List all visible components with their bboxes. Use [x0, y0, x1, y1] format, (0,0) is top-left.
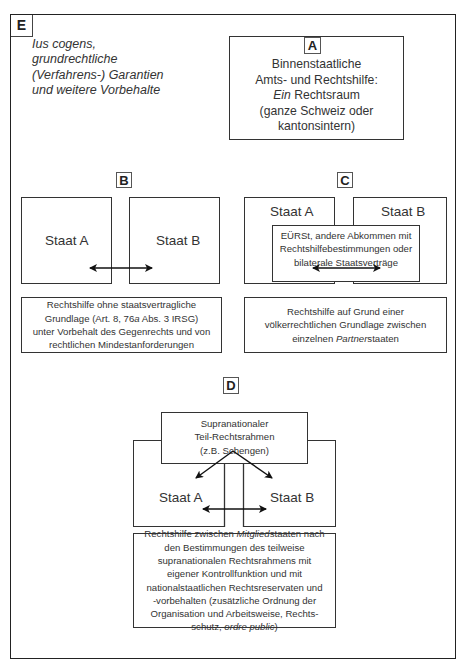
panel-a-line: Amts- und Rechtshilfe: [255, 73, 378, 89]
panel-e-line: (Verfahrens-) Garantien [32, 68, 164, 83]
panel-d-caption-text: staaten nach [270, 528, 325, 539]
panel-a-line3-rest: Rechtsraum [291, 88, 360, 102]
panel-d-caption-line: Organisation und Arbeitsweise, Rechts- [151, 607, 319, 620]
panel-d-supranational-box: Supranationaler Teil-Rechtsrahmen (z.B. … [161, 412, 308, 464]
panel-d-caption-line: Rechtshilfe zwischen Mitgliedstaaten nac… [144, 527, 324, 540]
panel-c-caption-text: staaten [367, 333, 398, 344]
panel-b-caption-line: Rechtshilfe ohne staatsvertragliche [47, 298, 196, 311]
panel-d-supranational-line: Supranationaler [201, 417, 269, 430]
panel-c-caption: Rechtshilfe auf Grund einer völkerrechtl… [244, 297, 447, 353]
panel-b-caption-text: Grundlage (Art. 8, 76 [45, 313, 135, 324]
panel-c-label: C [337, 172, 353, 188]
panel-b-caption-line: rechtlichen Mindestanforderungen [49, 338, 194, 351]
panel-b-caption-line: unter Vorbehalt des Gegenrechts und von [33, 325, 211, 338]
panel-d-caption-text: ) [275, 621, 278, 632]
panel-c-treaty-line: EÜRSt, andere Abkommen mit [281, 229, 412, 242]
panel-c-caption-text: einzelnen [292, 333, 336, 344]
panel-c-treaty-line: Rechtshilfebestimmungen oder [280, 242, 412, 255]
panel-b-caption-line: Grundlage (Art. 8, 76a Abs. 3 IRSG) [45, 312, 199, 325]
panel-d-caption-line: den Bestimmungen des teilweise [164, 541, 304, 554]
panel-b-label: B [116, 172, 132, 188]
panel-d-caption-line: supranationalen Rechtsrahmens mit [158, 554, 312, 567]
panel-c-treaty-box: EÜRSt, andere Abkommen mit Rechtshilfebe… [272, 225, 420, 282]
panel-c-treaty-text: EÜRSt, andere Abkommen mit Rechtshilfebe… [273, 229, 419, 269]
panel-e-line: und weitere Vorbehalte [32, 83, 164, 98]
panel-b-caption: Rechtshilfe ohne staatsvertragliche Grun… [21, 297, 222, 353]
panel-c-state-a-label: Staat A [270, 204, 314, 219]
panel-c-caption-emphasis: Partner [336, 333, 367, 344]
panel-d-caption-emphasis: Mitglied [237, 528, 270, 539]
panel-e-line: Ius cogens, [32, 37, 164, 52]
panel-a-emphasis: Ein [273, 88, 291, 102]
panel-d-supranational-line: (z.B. Schengen) [200, 444, 269, 457]
panel-b-state-a-label: Staat A [45, 233, 89, 248]
panel-c-treaty-line: bilaterale Staatsverträge [294, 256, 398, 269]
panel-a-text: Binnenstaatliche Amts- und Rechtshilfe: … [229, 55, 404, 137]
panel-c-caption-line: einzelnen Partnerstaaten [292, 332, 399, 345]
panel-a-line: Binnenstaatliche [272, 57, 361, 73]
panel-d-caption-text: Rechtshilfe zwischen [144, 528, 236, 539]
panel-d-caption-line: -vorbehalten (zusätzliche Ordnung der [153, 594, 316, 607]
panel-d-supranational-line: Teil-Rechtsrahmen [195, 430, 275, 443]
panel-b-state-b-label: Staat B [156, 233, 200, 248]
panel-c-caption-line: völkerrechtlichen Grundlage zwischen [265, 318, 427, 331]
panel-d-caption-line: eigener Kontrollfunktion und mit [167, 567, 302, 580]
panel-a-line: Ein Rechtsraum [273, 88, 360, 104]
panel-a-label: A [304, 37, 321, 54]
panel-a-line: kantonsintern) [278, 119, 355, 135]
panel-d-label: D [223, 377, 239, 394]
panel-e-text: Ius cogens, grundrechtliche (Verfahrens-… [32, 37, 164, 99]
panel-d-state-b-label: Staat B [270, 490, 314, 505]
panel-e-label: E [11, 15, 33, 37]
panel-a-line: (ganze Schweiz oder [260, 104, 374, 120]
panel-d-caption: Rechtshilfe zwischen Mitgliedstaaten nac… [133, 533, 336, 628]
panel-c-caption-line: Rechtshilfe auf Grund einer [287, 305, 404, 318]
panel-d-caption-line: nationalstaatlichen Rechtsreservaten und [147, 581, 323, 594]
panel-d-state-a-label: Staat A [159, 490, 203, 505]
panel-d-caption-emphasis: ordre public [224, 621, 274, 632]
panel-d-caption-line: schutz, ordre public) [191, 620, 277, 633]
panel-b-caption-text: Abs. 3 IRSG) [140, 313, 199, 324]
panel-c-state-b-label: Staat B [381, 204, 425, 219]
panel-e-line: grundrechtliche [32, 52, 164, 67]
panel-d-caption-text: schutz, [191, 621, 224, 632]
